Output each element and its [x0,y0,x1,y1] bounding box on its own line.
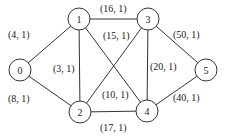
edge-label-3-5: (50, 1) [173,29,200,41]
node-1: 1 [68,8,90,30]
node-2: 2 [69,101,91,123]
edge-3-4 [147,19,148,111]
node-3: 3 [137,8,159,30]
node-label: 0 [18,65,23,76]
node-5: 5 [195,59,217,81]
edge-label-1-2: (3, 1) [53,63,75,75]
graph-diagram: (4, 1)(8, 1)(3, 1)(16, 1)(15, 1)(10, 1)(… [0,0,226,136]
edge-labels-layer: (4, 1)(8, 1)(3, 1)(16, 1)(15, 1)(10, 1)(… [8,3,200,134]
edge-label-3-4: (20, 1) [150,61,177,73]
node-label: 1 [77,14,82,25]
edge-label-4-5: (40, 1) [173,92,200,104]
edge-label-1-3: (16, 1) [100,3,127,15]
edge-label-2-3: (15, 1) [103,30,130,42]
node-label: 4 [145,106,150,117]
edge-label-0-1: (4, 1) [8,29,30,41]
node-label: 2 [78,107,83,118]
edge-label-1-4: (10, 1) [102,89,129,101]
edge-1-2 [79,19,80,112]
edge-label-2-4: (17, 1) [100,122,127,134]
node-label: 5 [204,65,209,76]
node-4: 4 [136,100,158,122]
edge-label-0-2: (8, 1) [8,93,30,105]
node-label: 3 [146,14,151,25]
node-0: 0 [9,59,31,81]
